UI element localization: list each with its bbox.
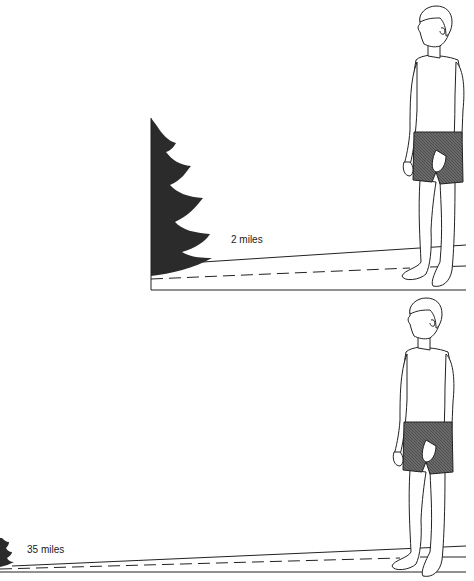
distance-label-far: 35 miles [27,544,64,555]
man-near-icon [402,6,464,286]
man-far-icon [392,298,454,576]
tree-near-icon [151,118,212,276]
tree-far-icon [0,538,14,567]
illustration-canvas: 2 miles 35 miles [0,0,474,581]
panel-far: 35 miles [0,298,466,576]
distance-label-near: 2 miles [231,234,263,245]
panel-near: 2 miles [151,6,466,290]
